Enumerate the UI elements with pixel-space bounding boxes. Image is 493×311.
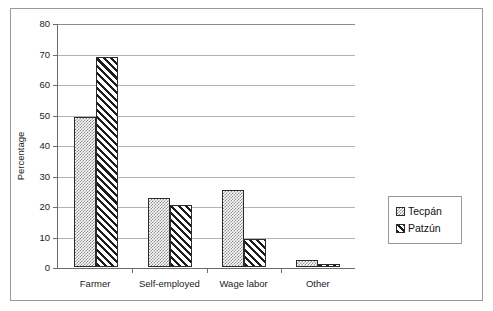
legend-swatch-icon-tecpan <box>396 207 405 216</box>
y-axis-tick <box>53 85 58 86</box>
x-axis-category-label: Wage labor <box>207 278 281 289</box>
y-axis-tick-label: 10 <box>39 233 50 243</box>
legend-label-tecpan: Tecpán <box>408 206 442 217</box>
x-axis-tick <box>207 268 208 273</box>
bar-groups <box>59 24 355 267</box>
y-axis-tick-label: 30 <box>39 172 50 182</box>
y-axis-tick <box>53 177 58 178</box>
y-axis-tick-label: 70 <box>39 50 50 60</box>
bar-group <box>281 24 355 267</box>
bar-chart-figure: Percentage 01020304050607080 FarmerSelf-… <box>0 0 493 311</box>
bar <box>318 264 340 267</box>
bar <box>244 239 266 267</box>
y-axis-tick <box>53 146 58 147</box>
legend-item-patzun: Patzún <box>396 220 455 237</box>
y-axis-tick-label: 40 <box>39 141 50 151</box>
x-axis-labels: FarmerSelf-employedWage laborOther <box>58 278 355 289</box>
x-axis-category-label: Other <box>281 278 355 289</box>
y-axis-tick-label: 60 <box>39 80 50 90</box>
x-axis-tick <box>132 268 133 273</box>
bar <box>222 190 244 267</box>
y-axis-title: Percentage <box>15 131 26 180</box>
legend-swatch-icon-patzun <box>396 224 405 233</box>
bar-group <box>59 24 133 267</box>
bar-group <box>133 24 207 267</box>
chart-legend: Tecpán Patzún <box>388 196 462 244</box>
legend-item-tecpan: Tecpán <box>396 203 455 220</box>
y-axis-tick <box>53 55 58 56</box>
x-axis-tick <box>281 268 282 273</box>
x-axis-category-label: Farmer <box>58 278 132 289</box>
bar-group <box>207 24 281 267</box>
plot-area: 01020304050607080 <box>57 24 355 269</box>
y-axis-tick-label: 20 <box>39 202 50 212</box>
y-axis-tick-label: 80 <box>39 19 50 29</box>
x-axis-category-label: Self-employed <box>132 278 206 289</box>
bar <box>148 198 170 267</box>
bar <box>96 57 118 267</box>
bar <box>74 117 96 267</box>
legend-label-patzun: Patzún <box>408 223 441 234</box>
bar <box>296 260 318 267</box>
y-axis-tick <box>53 207 58 208</box>
y-axis-tick <box>53 24 58 25</box>
y-axis-tick-label: 0 <box>45 263 50 273</box>
y-axis-tick-label: 50 <box>39 111 50 121</box>
plot-wrapper: 01020304050607080 FarmerSelf-employedWag… <box>57 24 355 269</box>
bar <box>170 205 192 267</box>
y-axis-tick <box>53 116 58 117</box>
y-axis-tick <box>53 238 58 239</box>
y-axis-tick <box>53 268 58 269</box>
